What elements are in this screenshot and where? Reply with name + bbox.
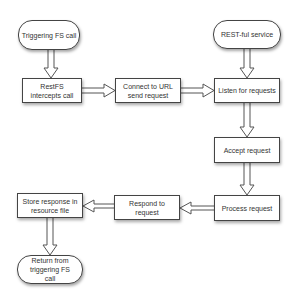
node-process-request: Process request <box>214 195 280 221</box>
edge-trigger-to-intercept <box>44 50 58 78</box>
node-triggering-fs-call: Triggering FS call <box>18 20 80 50</box>
edge-accept-to-process <box>240 163 254 195</box>
edge-process-to-respond <box>180 202 214 214</box>
edge-service-to-listen <box>240 49 254 78</box>
node-label: Accept request <box>224 146 271 155</box>
node-respond-to-request: Respond to request <box>114 195 180 220</box>
edge-listen-to-accept <box>240 103 254 137</box>
edge-respond-to-store <box>83 200 114 212</box>
node-label: Return from triggering FS call <box>24 256 76 283</box>
edge-store-to-return <box>43 218 57 255</box>
node-restfs-intercepts-call: RestFS intercepts call <box>22 78 82 103</box>
node-label: Store response in resource file <box>20 197 80 215</box>
edge-connect-to-listen <box>181 84 214 97</box>
node-label: Respond to request <box>117 199 177 217</box>
node-label: REST-ful service <box>221 30 273 39</box>
edge-intercept-to-connect <box>82 84 115 97</box>
node-rest-ful-service: REST-ful service <box>213 20 281 49</box>
node-return-from-triggering: Return from triggering FS call <box>17 255 83 284</box>
node-label: Triggering FS call <box>22 31 77 40</box>
node-accept-request: Accept request <box>214 137 280 163</box>
node-label: RestFS intercepts call <box>25 82 79 100</box>
node-listen-for-requests: Listen for requests <box>214 78 280 103</box>
node-store-response: Store response in resource file <box>17 193 83 218</box>
node-connect-to-url: Connect to URL send request <box>115 78 181 103</box>
node-label: Connect to URL send request <box>118 82 178 100</box>
node-label: Listen for requests <box>218 86 276 95</box>
node-label: Process request <box>222 204 273 213</box>
